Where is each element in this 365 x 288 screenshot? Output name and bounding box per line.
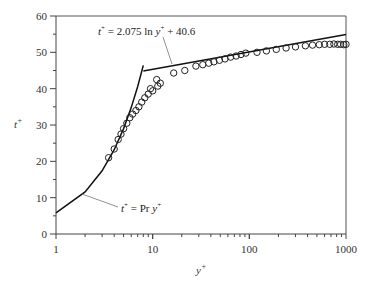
x-tick-label: 100 [241, 243, 258, 255]
chart: 0102030405060 1101001000 t+ = 2.075 ln y… [0, 0, 365, 288]
pr-equation: t+ = Pr y+ [121, 201, 161, 214]
data-point [154, 76, 160, 82]
pr-leader [82, 194, 118, 207]
y-tick-label: 50 [36, 46, 48, 58]
x-axis: 1101001000 [53, 234, 357, 255]
data-point [171, 70, 177, 76]
y-tick-label: 40 [36, 83, 48, 95]
y-tick-label: 60 [36, 10, 48, 22]
x-axis-title: y+ [195, 262, 206, 276]
log-law-equation: t+ = 2.075 ln y+ + 40.6 [98, 24, 196, 37]
series-lines [56, 35, 346, 213]
y-axis: 0102030405060 [36, 10, 56, 240]
y-axis-title: t+ [14, 116, 22, 130]
y-tick-label: 20 [36, 155, 48, 167]
x-tick-label: 1000 [335, 243, 358, 255]
annotations: t+ = 2.075 ln y+ + 40.6t+ = Pr y+ [82, 24, 196, 214]
y-tick-label: 30 [36, 119, 48, 131]
y-tick-label: 0 [42, 228, 48, 240]
data-point [292, 44, 298, 50]
x-tick-label: 10 [147, 243, 159, 255]
data-point [142, 95, 148, 101]
data-point [139, 99, 145, 105]
log-law-leader [163, 37, 172, 64]
log-law-line [143, 35, 346, 71]
pr-yplus-line [56, 65, 143, 213]
data-point [200, 61, 206, 67]
data-point [193, 63, 199, 69]
data-point [309, 42, 315, 48]
plot-frame [56, 16, 346, 234]
data-points [105, 41, 349, 161]
data-point [302, 43, 308, 49]
data-point [182, 67, 188, 73]
x-tick-label: 1 [53, 243, 59, 255]
y-tick-label: 10 [36, 192, 48, 204]
